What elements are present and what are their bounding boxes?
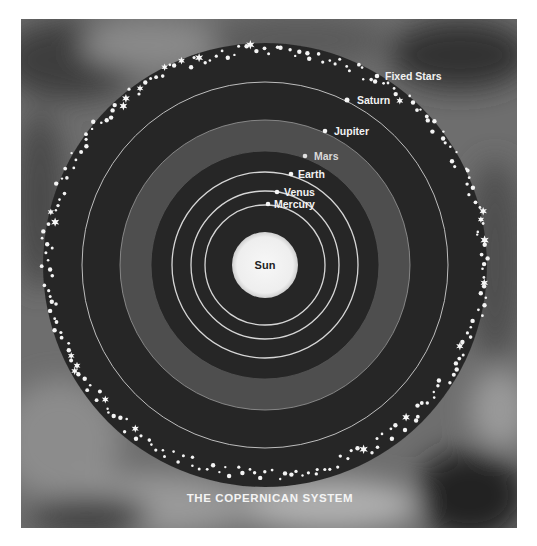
sun-label: Sun xyxy=(255,259,276,271)
mars-label: Mars xyxy=(314,150,339,162)
diagram-caption: THE COPERNICAN SYSTEM xyxy=(187,492,354,504)
copernican-diagram: Sun Mercury Venus Earth Mars Jupiter Sat… xyxy=(21,19,517,528)
earth-dot xyxy=(289,172,294,177)
copernican-system-plate: Sun Mercury Venus Earth Mars Jupiter Sat… xyxy=(21,19,517,528)
saturn-dot xyxy=(345,98,350,103)
mercury-label: Mercury xyxy=(274,198,315,210)
venus-label: Venus xyxy=(284,186,315,198)
jupiter-label: Jupiter xyxy=(334,125,369,137)
fixed-stars-dot xyxy=(375,74,380,79)
fixed-stars-label: Fixed Stars xyxy=(385,70,442,82)
saturn-label: Saturn xyxy=(357,94,390,106)
earth-label: Earth xyxy=(298,168,325,180)
venus-dot xyxy=(275,190,280,195)
mercury-dot xyxy=(266,202,271,207)
mars-dot xyxy=(303,154,308,159)
jupiter-dot xyxy=(323,129,328,134)
